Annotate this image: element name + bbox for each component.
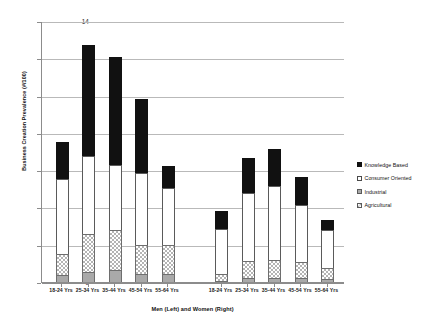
bar-segment-consumer-oriented [162, 188, 175, 245]
legend-swatch-icon [357, 189, 362, 194]
x-tick-label-4: 55-64 Yrs [144, 287, 190, 293]
bar-segment-agricultural [321, 268, 334, 279]
x-tick-mark-5 [221, 283, 222, 287]
bar-segment-industrial [162, 274, 175, 282]
x-tick-mark-6 [247, 283, 248, 287]
bar-segment-industrial [268, 278, 281, 282]
x-tick-mark-3 [141, 283, 142, 287]
bar-segment-industrial [215, 281, 228, 282]
bar-segment-industrial [82, 272, 95, 282]
legend-swatch-icon [357, 203, 362, 208]
y-axis-title: Business Creation Prevalence (#/100) [21, 46, 27, 196]
bar-segment-agricultural [135, 245, 148, 274]
bar-segment-consumer-oriented [242, 193, 255, 261]
bar-segment-agricultural [162, 245, 175, 274]
stacked-bar-chart: Business Creation Prevalence (#/100) 024… [0, 0, 438, 332]
bar-segment-knowledge-based [82, 45, 95, 156]
x-tick-mark-1 [88, 283, 89, 287]
legend-swatch-icon [357, 176, 362, 181]
x-tick-mark-2 [114, 283, 115, 287]
legend-item-industrial[interactable]: Industrial [357, 188, 437, 195]
bar-men-25-34-yrs[interactable] [82, 45, 95, 282]
bar-segment-agricultural [268, 260, 281, 279]
legend-label: Consumer Oriented [365, 175, 412, 181]
x-tick-mark-8 [300, 283, 301, 287]
bar-women-45-54-yrs[interactable] [295, 177, 308, 282]
bar-segment-consumer-oriented [109, 165, 122, 230]
legend-item-consumer-oriented[interactable]: Consumer Oriented [357, 175, 437, 182]
plot-area [41, 22, 344, 283]
bar-segment-consumer-oriented [268, 186, 281, 260]
bar-women-35-44-yrs[interactable] [268, 149, 281, 282]
bar-series-container [42, 22, 344, 282]
x-axis-title: Men (Left) and Women (Right) [41, 306, 344, 312]
bar-segment-consumer-oriented [56, 179, 69, 255]
bar-segment-knowledge-based [321, 220, 334, 230]
legend-item-knowledge-based[interactable]: Knowledge Based [357, 161, 437, 168]
bar-segment-industrial [242, 278, 255, 282]
chart-legend: Knowledge BasedConsumer OrientedIndustri… [357, 161, 437, 215]
bar-segment-consumer-oriented [215, 229, 228, 275]
legend-label: Knowledge Based [365, 162, 408, 168]
bar-segment-industrial [321, 279, 334, 282]
bar-men-35-44-yrs[interactable] [109, 57, 122, 282]
y-tick-mark-0 [37, 283, 41, 284]
x-tick-mark-9 [327, 283, 328, 287]
legend-label: Industrial [365, 189, 387, 195]
bar-women-25-34-yrs[interactable] [242, 158, 255, 282]
bar-segment-agricultural [109, 230, 122, 270]
bar-segment-agricultural [242, 261, 255, 279]
bar-segment-knowledge-based [162, 166, 175, 187]
x-tick-mark-7 [274, 283, 275, 287]
x-tick-label-9: 55-64 Yrs [304, 287, 350, 293]
legend-label: Agricultural [365, 202, 392, 208]
bar-segment-knowledge-based [242, 158, 255, 192]
bar-segment-knowledge-based [215, 211, 228, 229]
bar-segment-industrial [135, 274, 148, 282]
bar-men-55-64-yrs[interactable] [162, 166, 175, 282]
bar-women-55-64-yrs[interactable] [321, 220, 334, 282]
x-tick-mark-4 [167, 283, 168, 287]
bar-segment-knowledge-based [56, 142, 69, 178]
x-tick-mark-0 [61, 283, 62, 287]
bar-segment-knowledge-based [268, 149, 281, 186]
bar-segment-industrial [56, 275, 69, 282]
legend-swatch-icon [357, 162, 362, 167]
bar-men-18-24-yrs[interactable] [56, 142, 69, 282]
legend-item-agricultural[interactable]: Agricultural [357, 202, 437, 209]
bar-men-45-54-yrs[interactable] [135, 99, 148, 282]
bar-segment-agricultural [82, 234, 95, 272]
bar-segment-industrial [295, 278, 308, 282]
bar-segment-consumer-oriented [295, 205, 308, 262]
bar-segment-knowledge-based [295, 177, 308, 205]
bar-segment-knowledge-based [135, 99, 148, 173]
bar-segment-consumer-oriented [321, 230, 334, 268]
bar-segment-agricultural [56, 254, 69, 275]
bar-segment-industrial [109, 270, 122, 282]
bar-segment-consumer-oriented [135, 173, 148, 245]
bar-segment-consumer-oriented [82, 156, 95, 233]
bar-segment-agricultural [295, 262, 308, 279]
bar-segment-knowledge-based [109, 57, 122, 164]
bar-women-18-24-yrs[interactable] [215, 211, 228, 282]
